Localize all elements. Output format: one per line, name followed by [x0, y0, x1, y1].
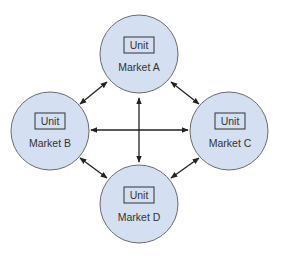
market-a-unit-label: Unit: [130, 39, 149, 51]
node-market-d: Unit Market D: [100, 165, 178, 243]
market-d-unit-label: Unit: [130, 189, 149, 201]
market-c-label: Market C: [209, 137, 252, 149]
market-c-circle: [190, 92, 268, 170]
market-d-circle: [100, 165, 178, 243]
market-b-unit-label: Unit: [41, 115, 60, 127]
edge-c-d: [171, 158, 199, 178]
edge-b-d: [80, 158, 107, 178]
market-a-circle: [100, 15, 178, 93]
market-b-label: Market B: [29, 137, 71, 149]
edge-a-c: [171, 82, 199, 104]
market-b-circle: [11, 92, 89, 170]
market-a-label: Market A: [118, 61, 159, 73]
market-c-unit-label: Unit: [221, 115, 240, 127]
edge-a-b: [80, 82, 107, 104]
market-d-label: Market D: [118, 211, 161, 223]
node-market-c: Unit Market C: [190, 92, 268, 170]
market-network-diagram: Unit Market A Unit Market B Unit Market …: [0, 0, 283, 259]
node-market-b: Unit Market B: [11, 92, 89, 170]
edges: [80, 82, 199, 178]
node-market-a: Unit Market A: [100, 15, 178, 93]
